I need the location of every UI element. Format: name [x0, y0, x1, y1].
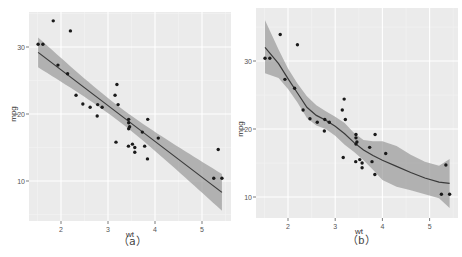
chart-a-linear-fit: 2345102030wtmpg	[9, 12, 231, 239]
y-axis-title: mpg	[9, 106, 18, 122]
data-point	[301, 108, 304, 111]
data-point	[95, 114, 98, 117]
data-point	[354, 136, 357, 139]
data-point	[358, 158, 361, 161]
data-point	[131, 142, 134, 145]
data-point	[342, 97, 345, 100]
data-point	[440, 193, 443, 196]
x-tick-label: 2	[59, 226, 63, 233]
data-point	[157, 136, 160, 139]
data-point	[279, 33, 282, 36]
y-tick-label: 10	[244, 194, 252, 201]
x-tick-label: 5	[200, 226, 204, 233]
data-point	[370, 160, 373, 163]
data-point	[127, 127, 130, 130]
data-point	[69, 29, 72, 32]
x-tick-label: 3	[333, 223, 337, 230]
data-point	[354, 133, 357, 136]
data-point	[368, 146, 371, 149]
data-point	[74, 94, 77, 97]
figure-canvas: 2345102030wtmpg 2345102030wtmpg	[0, 0, 462, 257]
data-point	[323, 118, 326, 121]
data-point	[263, 57, 266, 60]
y-tick-label: 30	[17, 44, 25, 51]
data-point	[66, 72, 69, 75]
data-point	[373, 173, 376, 176]
data-point	[127, 144, 130, 147]
data-point	[283, 78, 286, 81]
data-point	[342, 156, 345, 159]
data-point	[116, 103, 119, 106]
data-point	[114, 140, 117, 143]
x-tick-label: 5	[428, 223, 432, 230]
y-tick-label: 20	[244, 126, 252, 133]
data-point	[100, 106, 103, 109]
data-point	[143, 144, 146, 147]
data-point	[81, 102, 84, 105]
data-point	[448, 193, 451, 196]
data-point	[127, 118, 130, 121]
x-tick-label: 4	[153, 226, 157, 233]
data-point	[308, 117, 311, 120]
data-point	[88, 106, 91, 109]
data-point	[133, 146, 136, 149]
y-tick-label: 10	[17, 178, 25, 185]
data-point	[360, 161, 363, 164]
data-point	[146, 157, 149, 160]
data-point	[344, 118, 347, 121]
data-point	[212, 177, 215, 180]
data-point	[127, 121, 130, 124]
data-point	[328, 121, 331, 124]
data-point	[36, 43, 39, 46]
data-point	[56, 63, 59, 66]
x-tick-label: 2	[286, 223, 290, 230]
x-tick-label: 3	[106, 226, 110, 233]
data-point	[268, 57, 271, 60]
data-point	[354, 142, 357, 145]
chart-b-loess-fit: 2345102030wtmpg	[236, 8, 458, 236]
caption-a: （a）	[118, 232, 147, 248]
data-point	[296, 43, 299, 46]
y-axis-title: mpg	[236, 121, 245, 137]
data-point	[141, 130, 144, 133]
data-point	[444, 163, 447, 166]
data-point	[133, 150, 136, 153]
data-point	[113, 94, 116, 97]
data-point	[146, 118, 149, 121]
data-point	[220, 177, 223, 180]
y-tick-label: 30	[244, 58, 252, 65]
data-point	[115, 83, 118, 86]
data-point	[360, 166, 363, 169]
caption-b: （b）	[347, 231, 376, 247]
data-point	[217, 148, 220, 151]
data-point	[41, 43, 44, 46]
data-point	[96, 103, 99, 106]
y-tick-label: 20	[17, 111, 25, 118]
data-point	[341, 108, 344, 111]
data-point	[316, 121, 319, 124]
data-point	[323, 129, 326, 132]
x-tick-label: 4	[380, 223, 384, 230]
data-point	[52, 19, 55, 22]
data-point	[354, 160, 357, 163]
data-point	[373, 133, 376, 136]
data-point	[384, 152, 387, 155]
data-point	[293, 87, 296, 90]
